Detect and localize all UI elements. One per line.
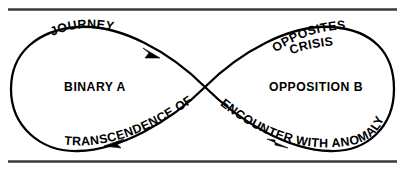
label-transcendence-of: TRANSCENDENCE OF [64,93,195,149]
label-opposition-b: OPPOSITION B [269,80,363,94]
figure-container: JOURNEY OPPOSITES CRISIS TRANSCENDENCE O… [0,0,409,172]
label-journey: JOURNEY [48,17,116,39]
label-encounter-with-anomaly: ENCOUNTER WITH ANOMALY [218,96,387,150]
label-binary-a: BINARY A [64,80,126,94]
lemniscate-diagram: JOURNEY OPPOSITES CRISIS TRANSCENDENCE O… [0,0,409,172]
